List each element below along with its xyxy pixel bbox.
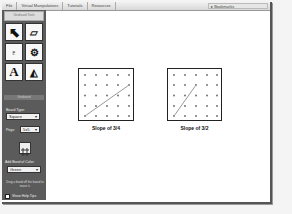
geoboard-2-pegs xyxy=(168,69,223,122)
menu-resources[interactable]: Resources xyxy=(88,2,116,10)
geoboard-1-caption: Slope of 3/4 xyxy=(78,125,134,131)
geoboard-1-pegs xyxy=(79,69,135,122)
grid-icon xyxy=(20,147,30,157)
band-help-text: Drag a band off the board to erase it. xyxy=(6,180,44,188)
chevron-down-icon: ▾ xyxy=(35,127,37,132)
pegs-label: Pegs: xyxy=(6,128,15,132)
geoboard-2-caption: Slope of 3/2 xyxy=(167,125,222,131)
pointer-tool-button[interactable]: ⬉ xyxy=(5,23,23,41)
paint-bucket-tool-button[interactable]: ♇ xyxy=(5,43,23,61)
help-tips-checkbox[interactable] xyxy=(5,194,10,199)
text-tool-button[interactable]: A xyxy=(5,63,23,81)
pegs-value: 5x5 xyxy=(23,127,29,132)
chevron-down-icon: ▾ xyxy=(36,167,38,172)
rubber-band xyxy=(174,85,196,116)
stamp-tool-button[interactable]: ⚙ xyxy=(25,43,43,61)
band-color-value: Green xyxy=(10,167,21,172)
board-type-value: Square xyxy=(9,114,22,119)
menu-file[interactable]: File xyxy=(2,2,17,10)
shape-icon: ◭ xyxy=(30,67,38,78)
tool-grid: ⬉ ▱ ♇ ⚙ A ◭ xyxy=(5,23,43,81)
help-tips-label: Show Help Tips xyxy=(12,194,36,199)
eraser-tool-button[interactable]: ▱ xyxy=(25,23,43,41)
band-color-select[interactable]: Green ▾ xyxy=(7,166,41,173)
tools-sidebar: Geoboard Tools ⬉ ▱ ♇ ⚙ A ◭ Geoboard Boar… xyxy=(2,10,46,200)
shape-tool-button[interactable]: ◭ xyxy=(25,63,43,81)
pegs-select[interactable]: 5x5 ▾ xyxy=(20,126,40,133)
pointer-icon: ⬉ xyxy=(9,25,20,40)
menu-virtual-manipulatives[interactable]: Virtual Manipulatives xyxy=(17,2,63,10)
board-type-select[interactable]: Square ▾ xyxy=(6,113,40,120)
bookmarks-label: Bookmarks xyxy=(214,4,234,9)
geoboard-section-label: Geoboard xyxy=(4,95,44,100)
geoboard-2[interactable] xyxy=(167,68,222,121)
new-board-button[interactable] xyxy=(19,142,31,154)
bookmarks-button[interactable]: ▸ Bookmarks xyxy=(208,3,268,9)
text-icon: A xyxy=(9,64,18,80)
stamp-icon: ⚙ xyxy=(30,47,39,58)
rubber-band xyxy=(85,85,129,116)
band-color-label: Add Band of Color: xyxy=(5,160,35,164)
geoboard-1[interactable] xyxy=(78,68,134,121)
paint-bucket-icon: ♇ xyxy=(10,47,18,58)
chevron-down-icon: ▾ xyxy=(35,114,37,119)
sidebar-header: Geoboard Tools xyxy=(4,11,44,21)
board-type-label: Board Type: xyxy=(6,108,25,112)
help-tips-toggle[interactable]: Show Help Tips xyxy=(5,194,45,200)
menu-tutorials[interactable]: Tutorials xyxy=(63,2,87,10)
eraser-icon: ▱ xyxy=(30,27,38,38)
